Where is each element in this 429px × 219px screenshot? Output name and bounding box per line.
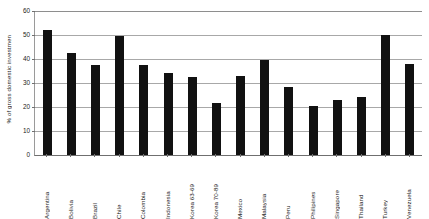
x-axis-tick-mark — [409, 154, 410, 157]
bar — [405, 64, 414, 155]
bar-slot — [204, 11, 228, 155]
bar — [212, 103, 221, 155]
x-axis-category: Venezuela — [397, 157, 421, 219]
x-axis-category: Chile — [107, 157, 131, 219]
x-axis-tick-mark — [167, 154, 168, 157]
bar-slot — [35, 11, 59, 155]
x-axis-tick-label: Chile — [115, 160, 122, 219]
x-axis-tick-mark — [240, 154, 241, 157]
x-axis-tick-mark — [264, 154, 265, 157]
x-axis-tick-label: Turkey — [381, 160, 388, 219]
y-axis-tick-label: 50 — [23, 32, 30, 38]
bar-slot — [156, 11, 180, 155]
bar — [236, 76, 245, 155]
x-axis-tick-label: Venezuela — [405, 160, 412, 219]
x-axis-tick-mark — [70, 154, 71, 157]
bar-slot — [83, 11, 107, 155]
bar-slot — [325, 11, 349, 155]
bar-slot — [277, 11, 301, 155]
x-axis-category: Mexico — [228, 157, 252, 219]
x-axis-tick-mark — [215, 154, 216, 157]
bar-chart: % of gross domestic investmen 0102030405… — [0, 0, 429, 219]
x-axis-tick-mark — [119, 154, 120, 157]
x-axis-tick-label: Singapore — [333, 160, 340, 219]
x-axis-category: Brazil — [82, 157, 106, 219]
x-axis-category: Philipines — [300, 157, 324, 219]
bar — [139, 65, 148, 155]
x-axis-tick-mark — [312, 154, 313, 157]
y-axis-tick-label: 30 — [23, 80, 30, 86]
bar — [309, 106, 318, 155]
x-axis-tick-mark — [143, 154, 144, 157]
x-axis-tick-label: Philipines — [309, 160, 316, 219]
bar — [164, 73, 173, 155]
bar — [333, 100, 342, 155]
bar-series — [35, 11, 422, 155]
x-axis-tick-label: Korea 63-69 — [188, 160, 195, 219]
y-axis-tick-label: 10 — [23, 128, 30, 134]
x-axis-tick-labels: ArgentinaBoliviaBrazilChileColombiaIndon… — [34, 157, 421, 219]
x-axis-category: Thailand — [348, 157, 372, 219]
x-axis-category: Singapore — [324, 157, 348, 219]
x-axis-category: Argentina — [34, 157, 58, 219]
bar-slot — [301, 11, 325, 155]
x-axis-category: Malaysia — [252, 157, 276, 219]
x-axis-tick-label: Mexico — [236, 160, 243, 219]
x-axis-tick-mark — [385, 154, 386, 157]
x-axis-tick-mark — [336, 154, 337, 157]
x-axis-tick-label: Malaysia — [260, 160, 267, 219]
x-axis-tick-mark — [46, 154, 47, 157]
bar — [67, 53, 76, 155]
x-axis-tick-label: Bolivia — [67, 160, 74, 219]
bar-slot — [59, 11, 83, 155]
bar — [284, 87, 293, 155]
x-axis-category: Peru — [276, 157, 300, 219]
bar-slot — [253, 11, 277, 155]
y-axis-tick-label: 60 — [23, 8, 30, 14]
x-axis-tick-mark — [191, 154, 192, 157]
y-axis-tick-labels: 0102030405060 — [16, 0, 32, 160]
bar — [115, 36, 124, 155]
y-axis-tick-label: 0 — [26, 152, 30, 158]
bar — [357, 97, 366, 155]
x-axis-category: Bolivia — [58, 157, 82, 219]
bar — [91, 65, 100, 155]
x-axis-category: Korea 63-69 — [179, 157, 203, 219]
y-axis-tick-label: 40 — [23, 56, 30, 62]
x-axis-tick-label: Colombia — [139, 160, 146, 219]
x-axis-category: Colombia — [131, 157, 155, 219]
bar-slot — [108, 11, 132, 155]
bar — [43, 30, 52, 155]
x-axis-category: Korea 70-89 — [203, 157, 227, 219]
plot-area — [34, 11, 422, 156]
x-axis-tick-label: Thailand — [357, 160, 364, 219]
x-axis-tick-label: Argentina — [43, 160, 50, 219]
y-axis-tick-label: 20 — [23, 104, 30, 110]
bar-slot — [180, 11, 204, 155]
y-axis-title-label: % of gross domestic investmen — [5, 35, 12, 124]
bar-slot — [374, 11, 398, 155]
x-axis-category: Turkey — [373, 157, 397, 219]
x-axis-tick-mark — [361, 154, 362, 157]
bar — [381, 35, 390, 155]
x-axis-tick-label: Brazil — [91, 160, 98, 219]
y-axis-title: % of gross domestic investmen — [0, 0, 16, 158]
x-axis-category: Indonesia — [155, 157, 179, 219]
x-axis-tick-label: Peru — [284, 160, 291, 219]
bar — [188, 77, 197, 155]
x-axis-tick-mark — [94, 154, 95, 157]
bar-slot — [349, 11, 373, 155]
bar-slot — [132, 11, 156, 155]
x-axis-tick-label: Korea 70-89 — [212, 160, 219, 219]
bar-slot — [398, 11, 422, 155]
x-axis-tick-label: Indonesia — [164, 160, 171, 219]
x-axis-tick-mark — [288, 154, 289, 157]
bar — [260, 60, 269, 155]
bar-slot — [229, 11, 253, 155]
